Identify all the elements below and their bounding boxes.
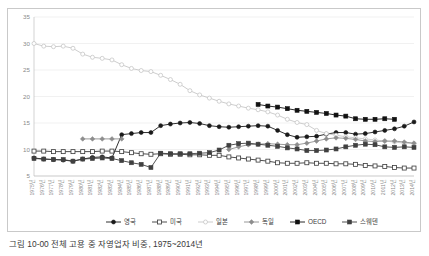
x-tick-label: 2007년 (340, 179, 347, 196)
data-point (373, 130, 377, 134)
x-tick-label: 1983년 (106, 179, 113, 196)
data-point (324, 148, 328, 152)
data-point (266, 104, 270, 108)
data-point (217, 99, 221, 103)
data-point (393, 127, 397, 131)
y-axis-tick-labels: 5101520253035 (23, 13, 30, 179)
data-point (256, 158, 260, 162)
legend-marker (204, 220, 208, 224)
data-point (207, 124, 211, 128)
data-point (139, 162, 143, 166)
data-point (178, 82, 182, 86)
data-point (373, 164, 377, 168)
legend-label: 일본 (216, 217, 228, 225)
x-tick-label: 1996년 (233, 179, 240, 196)
data-point (42, 44, 46, 48)
data-point (227, 125, 231, 129)
data-point (198, 122, 202, 126)
y-tick-label: 10 (23, 146, 30, 153)
data-point (149, 166, 153, 170)
data-point (334, 113, 338, 117)
data-point (276, 144, 280, 148)
data-point (90, 150, 94, 154)
x-tick-label: 2004년 (311, 179, 318, 196)
legend-marker (249, 220, 254, 225)
x-tick-label: 2013년 (398, 179, 405, 196)
data-point (315, 134, 319, 138)
data-point (412, 166, 416, 170)
data-point (188, 152, 192, 156)
data-point (120, 150, 124, 154)
legend-item-OECD[interactable]: OECD (290, 218, 327, 225)
data-point (90, 55, 94, 59)
data-point (315, 161, 319, 165)
data-point (80, 137, 85, 142)
data-point (168, 152, 172, 156)
x-tick-label: 1984년 (116, 179, 123, 196)
data-point (90, 137, 95, 142)
data-point (305, 149, 309, 153)
chart-legend: 영국미국일본독일OECD스웨덴 (106, 217, 378, 226)
data-point (237, 104, 241, 108)
data-point (402, 166, 406, 170)
data-point (354, 162, 358, 166)
legend-label: 스웨덴 (360, 217, 378, 226)
data-point (344, 162, 348, 166)
data-point (256, 108, 260, 112)
data-point (227, 102, 231, 106)
x-tick-label: 2002년 (291, 179, 298, 196)
legend-marker (112, 220, 116, 224)
data-point (344, 131, 348, 135)
series-미국 (32, 149, 416, 170)
data-point (285, 146, 289, 150)
data-point (42, 149, 46, 153)
data-point (120, 133, 124, 137)
data-point (188, 120, 192, 124)
data-point (32, 149, 36, 153)
y-tick-label: 30 (23, 40, 30, 47)
x-tick-label: 1994년 (213, 179, 220, 196)
data-point (393, 166, 397, 170)
data-point (295, 147, 299, 151)
data-point (285, 133, 289, 137)
legend-item-영국[interactable]: 영국 (106, 217, 136, 226)
x-tick-label: 2008년 (350, 179, 357, 196)
data-point (81, 52, 85, 56)
data-point (276, 161, 280, 165)
legend-item-미국[interactable]: 미국 (152, 217, 182, 226)
data-point (110, 58, 114, 62)
data-point (295, 135, 299, 139)
legend-item-일본[interactable]: 일본 (198, 217, 228, 225)
data-point (129, 66, 133, 70)
data-point (149, 152, 153, 156)
data-point (110, 137, 115, 142)
data-point (412, 145, 416, 149)
data-point (61, 150, 65, 154)
y-tick-label: 5 (27, 172, 31, 179)
data-point (217, 153, 221, 157)
data-point (178, 152, 182, 156)
data-point (71, 159, 75, 163)
x-tick-label: 1991년 (184, 179, 191, 196)
legend-item-독일[interactable]: 독일 (244, 217, 274, 226)
data-point (129, 151, 133, 155)
data-point (139, 69, 143, 73)
data-point (120, 159, 124, 163)
data-point (276, 113, 280, 117)
x-tick-label: 2011년 (379, 179, 386, 195)
data-point (178, 121, 182, 125)
data-point (285, 161, 289, 165)
data-point (314, 139, 319, 144)
legend-label: 영국 (124, 217, 136, 226)
data-point (334, 147, 338, 151)
x-tick-label: 1988년 (155, 179, 162, 196)
legend-item-스웨덴[interactable]: 스웨덴 (342, 217, 378, 226)
data-point (110, 157, 114, 161)
data-point (393, 117, 397, 121)
data-point (344, 114, 348, 118)
data-point (246, 124, 250, 128)
data-point (266, 159, 270, 163)
x-tick-label: 1987년 (145, 179, 152, 196)
x-axis-tick-labels: 1975년1976년1977년1978년1979년1980년1981년1982년… (28, 179, 415, 196)
legend-label: 미국 (170, 217, 182, 226)
